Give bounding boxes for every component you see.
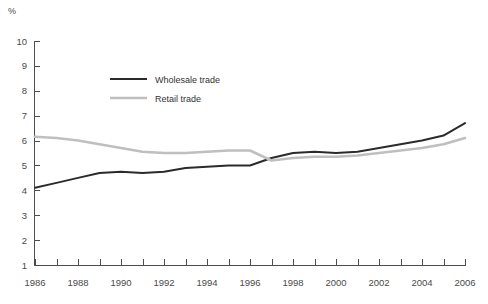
series-line-retail-trade (35, 137, 465, 161)
y-tick-label: 4 (22, 185, 27, 196)
x-tick-label: 1988 (67, 277, 88, 288)
y-tick-label: 6 (22, 135, 27, 146)
chart-legend: Wholesale tradeRetail trade (110, 75, 220, 104)
y-axis-ticks: 12345678910 (16, 36, 40, 271)
legend-label-wholesale-trade: Wholesale trade (155, 75, 220, 85)
x-tick-label: 1990 (110, 277, 131, 288)
x-tick-label: 2006 (454, 277, 475, 288)
y-tick-label: 7 (22, 110, 27, 121)
y-tick-label: 2 (22, 235, 27, 246)
x-tick-label: 1992 (153, 277, 174, 288)
x-tick-label: 1994 (196, 277, 217, 288)
x-tick-label: 2002 (368, 277, 389, 288)
data-series-group (35, 123, 465, 188)
x-tick-label: 1998 (282, 277, 303, 288)
legend-label-retail-trade: Retail trade (155, 94, 201, 104)
x-tick-label: 1996 (239, 277, 260, 288)
line-chart-plot: 12345678910 1986198819901992199419961998… (0, 0, 488, 304)
x-tick-label: 1986 (24, 277, 45, 288)
axes-group (35, 41, 467, 266)
y-tick-label: 8 (22, 85, 27, 96)
y-tick-label: 9 (22, 60, 27, 71)
x-tick-label: 2000 (325, 277, 346, 288)
series-line-wholesale-trade (35, 123, 465, 188)
y-tick-label: 10 (16, 36, 27, 47)
y-tick-label: 1 (22, 260, 27, 271)
x-tick-label: 2004 (411, 277, 432, 288)
y-tick-label: 5 (22, 160, 27, 171)
y-tick-label: 3 (22, 210, 27, 221)
x-axis-ticks: 1986198819901992199419961998200020022004… (24, 259, 475, 288)
chart-container: % 12345678910 19861988199019921994199619… (0, 0, 488, 304)
